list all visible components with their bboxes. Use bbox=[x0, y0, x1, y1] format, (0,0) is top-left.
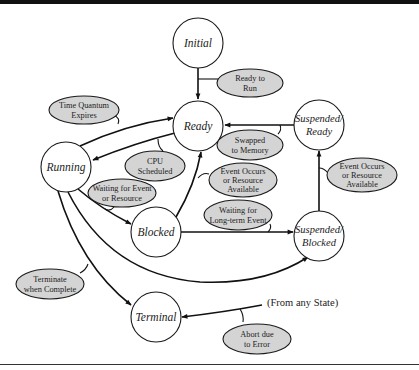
state-running: Running bbox=[41, 142, 91, 192]
condition-label: or Resource bbox=[342, 171, 382, 180]
condition-event-occurs-middle: Event Occurs or Resource Available bbox=[209, 163, 277, 197]
state-suspended-blocked: Suspended/ Blocked bbox=[294, 211, 344, 261]
tick-swapped bbox=[278, 125, 281, 134]
tick-terminate bbox=[80, 264, 88, 273]
condition-label: Event Occurs bbox=[340, 162, 385, 171]
condition-label: to Memory bbox=[231, 146, 269, 155]
condition-label: or Resource bbox=[223, 176, 263, 185]
condition-label: Run bbox=[243, 84, 258, 93]
state-suspended-blocked-label-2: Blocked bbox=[302, 237, 337, 248]
condition-label: Scheduled bbox=[138, 167, 173, 176]
condition-label: Expires bbox=[71, 111, 96, 120]
condition-long-term-ellipse bbox=[204, 200, 272, 230]
condition-label: or Resource bbox=[102, 194, 142, 203]
condition-abort-ellipse bbox=[223, 324, 291, 354]
condition-terminate-ellipse bbox=[16, 269, 84, 299]
state-ready-label: Ready bbox=[183, 120, 214, 133]
condition-cpu-scheduled-ellipse bbox=[125, 151, 185, 181]
condition-label: Available bbox=[227, 185, 259, 194]
tick-long-term bbox=[268, 224, 271, 232]
condition-waiting-long-term: Waiting for Long-term Event bbox=[204, 200, 272, 230]
state-terminal-label: Terminal bbox=[135, 311, 176, 323]
condition-label: Event Occurs bbox=[221, 167, 266, 176]
state-suspended-ready: Suspended/ Ready bbox=[294, 100, 344, 150]
condition-label: Long-term Event bbox=[210, 216, 268, 225]
condition-swapped-to-memory: Swapped to Memory bbox=[217, 130, 283, 160]
condition-terminate-when-complete: Terminate when Complete bbox=[16, 269, 84, 299]
condition-label: Swapped bbox=[235, 136, 266, 145]
tick-cpu-scheduled bbox=[158, 139, 163, 151]
condition-label: Time Quantum bbox=[59, 101, 110, 110]
condition-label: CPU bbox=[147, 157, 163, 166]
state-blocked: Blocked bbox=[131, 207, 181, 257]
condition-label: to Error bbox=[244, 340, 270, 349]
tick-event-occurs-right bbox=[319, 168, 328, 173]
condition-waiting-for-event: Waiting for Event or Resource bbox=[88, 179, 156, 207]
condition-label: Terminate bbox=[33, 275, 67, 284]
state-diagram: Initial Ready Running Blocked Terminal S… bbox=[0, 0, 419, 370]
state-suspended-blocked-label-1: Suspended/ bbox=[295, 224, 344, 235]
edge-running-to-suspblocked bbox=[68, 192, 308, 282]
condition-label: Ready to bbox=[235, 74, 265, 83]
condition-time-quantum-expires: Time Quantum Expires bbox=[49, 96, 119, 124]
condition-ready-to-run: Ready to Run bbox=[217, 69, 283, 97]
from-any-state-label: (From any State) bbox=[267, 297, 339, 309]
state-running-label: Running bbox=[46, 161, 86, 174]
state-terminal: Terminal bbox=[131, 292, 181, 342]
state-ready: Ready bbox=[173, 101, 223, 151]
condition-label: Available bbox=[346, 180, 378, 189]
state-initial: Initial bbox=[173, 18, 223, 68]
state-blocked-label: Blocked bbox=[137, 226, 174, 238]
state-initial-label: Initial bbox=[183, 37, 212, 49]
tick-event-occurs-middle bbox=[198, 174, 209, 179]
state-suspended-ready-label-1: Suspended/ bbox=[295, 113, 344, 124]
state-suspended-blocked-circle bbox=[294, 211, 344, 261]
condition-abort-due-to-error: Abort due to Error bbox=[223, 324, 291, 354]
condition-label: when Complete bbox=[24, 285, 77, 294]
condition-swapped-ellipse bbox=[217, 130, 283, 160]
edge-anystate-to-terminal bbox=[182, 305, 262, 317]
tick-abort bbox=[240, 309, 243, 322]
tick-waiting-event bbox=[105, 207, 114, 210]
condition-label: Abort due bbox=[240, 330, 274, 339]
state-suspended-ready-circle bbox=[294, 100, 344, 150]
condition-label: Waiting for Event bbox=[92, 184, 152, 193]
state-suspended-ready-label-2: Ready bbox=[305, 126, 333, 137]
condition-label: Waiting for bbox=[219, 206, 257, 215]
condition-event-occurs-right: Event Occurs or Resource Available bbox=[327, 158, 397, 192]
condition-cpu-scheduled: CPU Scheduled bbox=[125, 151, 185, 181]
